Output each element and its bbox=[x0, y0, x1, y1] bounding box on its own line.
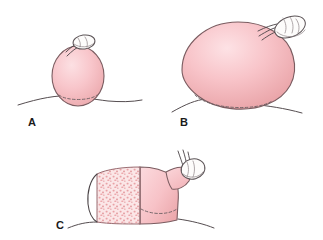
panel-a-label: A bbox=[28, 116, 36, 128]
panel-c-label: C bbox=[56, 219, 64, 231]
figure-root: A B bbox=[0, 0, 323, 240]
panel-b-label: B bbox=[180, 116, 188, 128]
panel-b: B bbox=[172, 12, 309, 128]
panel-c-tissue-baseline-right bbox=[178, 219, 214, 228]
panel-c-stalk-thread bbox=[178, 151, 183, 166]
panel-c-tissue-baseline-left bbox=[68, 222, 97, 228]
panel-c-cut-face bbox=[97, 167, 140, 224]
illustration-canvas: A B bbox=[0, 0, 323, 240]
panel-a: A bbox=[18, 34, 142, 128]
panel-c-left-shoulder bbox=[88, 174, 97, 222]
panel-a-mass bbox=[52, 46, 104, 106]
panel-c: C bbox=[56, 150, 214, 231]
